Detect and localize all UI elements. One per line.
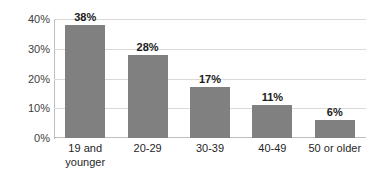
x-label-50-or-older: 50 or older — [304, 141, 366, 155]
bar-value-40-49: 11% — [262, 91, 283, 103]
bar-value-30-39: 17% — [199, 73, 221, 85]
y-axis-tick-20: 20% — [6, 74, 50, 85]
bar-slot: 6% — [304, 19, 366, 138]
bar-20-29 — [128, 55, 168, 138]
bar-40-49 — [252, 105, 292, 138]
y-axis-tick-40: 40% — [6, 14, 50, 25]
y-axis-tick-10: 10% — [6, 103, 50, 114]
bar-chart: 40% 30% 20% 10% 0% 38% 28% 17% 11% — [0, 0, 384, 187]
x-label-30-39: 30-39 — [179, 141, 241, 155]
bar-slot: 38% — [54, 19, 116, 138]
bar-19-and-younger — [65, 25, 105, 138]
y-axis-tick-30: 30% — [6, 44, 50, 55]
y-axis-tick-0: 0% — [6, 133, 50, 144]
x-label-40-49: 40-49 — [241, 141, 303, 155]
y-axis-tick-labels: 40% 30% 20% 10% 0% — [0, 0, 50, 187]
bar-value-19-and-younger: 38% — [74, 11, 96, 23]
x-axis-category-labels: 19 and younger 20-29 30-39 40-49 50 or o… — [54, 141, 366, 185]
x-label-19-and-younger: 19 and younger — [54, 141, 116, 169]
bar-50-or-older — [315, 120, 355, 138]
bar-slot: 28% — [116, 19, 178, 138]
bar-slot: 17% — [179, 19, 241, 138]
x-label-20-29: 20-29 — [116, 141, 178, 155]
bar-30-39 — [190, 87, 230, 138]
bar-value-50-or-older: 6% — [327, 106, 343, 118]
bar-slot: 11% — [241, 19, 303, 138]
bar-value-20-29: 28% — [137, 41, 159, 53]
plot-area: 38% 28% 17% 11% 6% — [54, 19, 366, 138]
